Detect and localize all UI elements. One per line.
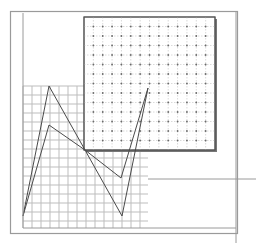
- grid-dot: [167, 83, 169, 85]
- grid-dot: [102, 130, 104, 132]
- grid-dot: [158, 64, 160, 66]
- grid-dot: [149, 64, 151, 66]
- grid-dot: [92, 121, 94, 123]
- grid-dot: [121, 130, 123, 132]
- grid-dot: [158, 45, 160, 47]
- grid-dot: [130, 92, 132, 94]
- grid-dot: [177, 35, 179, 37]
- grid-dot: [158, 92, 160, 94]
- grid-dot: [205, 26, 207, 28]
- grid-dot: [130, 121, 132, 123]
- grid-dot: [158, 111, 160, 113]
- grid-dot: [139, 45, 141, 47]
- grid-dot: [195, 35, 197, 37]
- grid-dot: [195, 130, 197, 132]
- grid-dot: [205, 35, 207, 37]
- grid-dot: [102, 73, 104, 75]
- grid-dot: [195, 92, 197, 94]
- grid-dot: [139, 35, 141, 37]
- grid-dot: [186, 73, 188, 75]
- grid-dot: [167, 45, 169, 47]
- grid-dot: [102, 121, 104, 123]
- grid-dot: [149, 73, 151, 75]
- grid-dot: [111, 45, 113, 47]
- grid-dot: [186, 130, 188, 132]
- grid-dot: [177, 140, 179, 142]
- grid-dot: [121, 35, 123, 37]
- grid-dot: [121, 45, 123, 47]
- grid-dot: [111, 35, 113, 37]
- grid-dot: [186, 140, 188, 142]
- grid-dot: [121, 92, 123, 94]
- grid-dot: [149, 111, 151, 113]
- grid-dot: [186, 35, 188, 37]
- grid-dot: [186, 92, 188, 94]
- diagram-canvas: [0, 0, 256, 243]
- grid-dot: [92, 26, 94, 28]
- grid-dot: [111, 54, 113, 56]
- grid-dot: [102, 54, 104, 56]
- grid-dot: [130, 26, 132, 28]
- grid-dot: [111, 83, 113, 85]
- grid-dot: [102, 102, 104, 104]
- grid-dot: [158, 73, 160, 75]
- grid-dot: [158, 26, 160, 28]
- grid-dot: [177, 83, 179, 85]
- grid-dot: [111, 111, 113, 113]
- grid-dot: [130, 35, 132, 37]
- grid-dot: [149, 45, 151, 47]
- grid-dot: [92, 92, 94, 94]
- grid-dot: [111, 26, 113, 28]
- grid-dot: [205, 130, 207, 132]
- grid-dot: [205, 92, 207, 94]
- grid-dot: [167, 35, 169, 37]
- grid-dot: [167, 140, 169, 142]
- grid-dot: [121, 26, 123, 28]
- grid-dot: [158, 121, 160, 123]
- grid-dot: [130, 64, 132, 66]
- grid-dot: [195, 140, 197, 142]
- grid-dot: [92, 73, 94, 75]
- grid-dot: [130, 45, 132, 47]
- grid-dot: [195, 45, 197, 47]
- grid-dot: [167, 64, 169, 66]
- grid-dot: [186, 64, 188, 66]
- grid-dot: [111, 102, 113, 104]
- grid-dot: [92, 45, 94, 47]
- grid-dot: [102, 45, 104, 47]
- grid-dot: [111, 130, 113, 132]
- grid-dot: [149, 35, 151, 37]
- grid-dot: [111, 73, 113, 75]
- grid-dot: [121, 111, 123, 113]
- grid-dot: [149, 54, 151, 56]
- grid-dot: [102, 83, 104, 85]
- grid-dot: [186, 121, 188, 123]
- grid-dot: [205, 54, 207, 56]
- grid-dot: [167, 73, 169, 75]
- grid-dot: [111, 64, 113, 66]
- grid-dot: [158, 83, 160, 85]
- grid-dot: [177, 64, 179, 66]
- grid-dot: [149, 26, 151, 28]
- grid-dot: [111, 140, 113, 142]
- grid-dot: [139, 54, 141, 56]
- grid-dot: [121, 54, 123, 56]
- grid-dot: [195, 83, 197, 85]
- grid-dot: [167, 121, 169, 123]
- grid-dot: [130, 73, 132, 75]
- grid-dot: [205, 64, 207, 66]
- grid-dot: [102, 140, 104, 142]
- grid-dot: [186, 111, 188, 113]
- grid-dot: [205, 83, 207, 85]
- grid-dot: [177, 54, 179, 56]
- grid-dot: [195, 64, 197, 66]
- grid-dot: [186, 102, 188, 104]
- grid-dot: [121, 102, 123, 104]
- grid-dot: [92, 35, 94, 37]
- grid-dot: [139, 73, 141, 75]
- grid-dot: [167, 92, 169, 94]
- grid-dot: [149, 92, 151, 94]
- grid-dot: [205, 111, 207, 113]
- grid-dot: [92, 54, 94, 56]
- grid-dot: [121, 83, 123, 85]
